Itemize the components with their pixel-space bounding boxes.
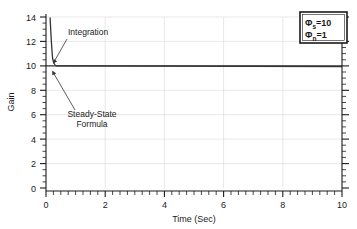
annotation-steady-state-leader — [54, 73, 76, 110]
annotation-steady-state-label-line1: Steady-State — [67, 109, 116, 119]
y-tick-label-14: 14 — [26, 13, 36, 23]
y-tick-label-10: 10 — [26, 61, 36, 71]
grid-horizontal — [46, 17, 342, 164]
y-tick-label-4: 4 — [31, 135, 36, 145]
annotation-steady-state-label-line2: Formula — [76, 119, 107, 129]
annotation-integration-leader — [55, 39, 68, 61]
gain-vs-time-chart: 14 12 10 8 6 4 2 0 Gain — [0, 0, 357, 229]
x-axis: 0 2 4 6 8 10 Time (Sec) — [43, 191, 347, 224]
x-tick-label-0: 0 — [43, 200, 48, 210]
x-tick-label-8: 8 — [280, 200, 285, 210]
y-tick-label-2: 2 — [31, 159, 36, 169]
grid-vertical — [105, 17, 283, 188]
y-tick-label-12: 12 — [26, 37, 36, 47]
legend-entry-phi-s: Φs=10 — [305, 18, 331, 30]
x-tick-label-6: 6 — [221, 200, 226, 210]
annotation-steady-state-formula: Steady-State Formula — [52, 70, 117, 129]
y-tick-label-6: 6 — [31, 110, 36, 120]
y-axis: 14 12 10 8 6 4 2 0 Gain — [6, 13, 46, 194]
x-tick-label-4: 4 — [162, 200, 167, 210]
annotation-integration-label: Integration — [68, 27, 108, 37]
y-axis-title: Gain — [6, 92, 16, 111]
y-right-minor-ticks — [342, 23, 346, 182]
legend-phi-s-value: 10 — [321, 18, 331, 28]
x-axis-title: Time (Sec) — [172, 214, 216, 224]
x-minor-ticks — [53, 191, 334, 195]
x-tick-label-2: 2 — [103, 200, 108, 210]
y-tick-label-8: 8 — [31, 86, 36, 96]
y-tick-label-0: 0 — [31, 184, 36, 194]
legend-entry-phi-n: Φn=1 — [305, 30, 327, 42]
legend-phi-n-value: 1 — [322, 30, 327, 40]
legend-box: Φs=10 Φn=1 — [300, 12, 347, 43]
integration-curve-series — [50, 18, 342, 67]
x-tick-label-10: 10 — [337, 200, 347, 210]
annotation-integration: Integration — [53, 27, 108, 64]
chart-page: 14 12 10 8 6 4 2 0 Gain — [0, 0, 357, 229]
